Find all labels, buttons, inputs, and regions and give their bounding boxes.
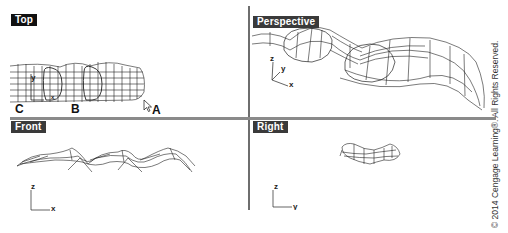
top-axis-x-label: x <box>51 94 54 100</box>
top-view-mesh <box>0 0 248 117</box>
viewport-perspective[interactable]: Perspective z y x <box>250 0 486 117</box>
callout-a: A <box>152 103 161 117</box>
viewport-right[interactable]: Right z y <box>250 120 486 210</box>
copyright-notice: © 2014 Cengage Learning®. All Rights Res… <box>490 6 500 228</box>
right-axis-z-label: z <box>274 182 278 191</box>
right-view-mesh <box>250 120 486 210</box>
callout-b: B <box>71 102 80 116</box>
arrow-cursor-icon <box>144 100 152 112</box>
perspective-axis-z-label: z <box>270 54 274 63</box>
callout-c: C <box>15 102 24 116</box>
viewport-front[interactable]: Front z x <box>0 120 248 233</box>
right-axis-icon <box>273 190 292 207</box>
viewport-top[interactable]: Top y x C B A <box>0 0 248 117</box>
front-axis-icon <box>31 190 50 210</box>
perspective-axis-x-label: x <box>289 80 293 89</box>
top-axis-y-label: y <box>31 73 35 82</box>
perspective-axis-icon <box>272 62 288 86</box>
viewport-label-perspective[interactable]: Perspective <box>253 16 319 28</box>
front-axis-x-label: x <box>51 204 55 213</box>
front-view-mesh <box>0 120 248 233</box>
front-axis-z-label: z <box>31 182 35 191</box>
right-axis-y-label: y <box>293 202 297 210</box>
perspective-axis-y-label: y <box>281 64 285 73</box>
